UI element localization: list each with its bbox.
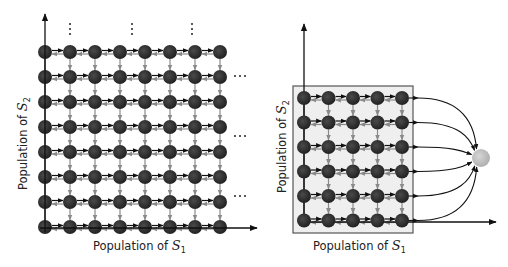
state-node [346,165,360,179]
vertical-ellipsis-dot [69,23,71,25]
state-node [322,165,336,179]
state-node [371,91,385,105]
state-node [213,170,227,184]
state-node [188,120,202,134]
horizontal-ellipsis-dot [244,75,246,77]
state-node [113,95,127,109]
state-node [63,70,77,84]
absorbing-state-node [472,149,490,167]
state-node [188,45,202,59]
state-node [371,165,385,179]
state-node [322,91,336,105]
state-node [297,165,311,179]
state-node [346,140,360,154]
absorbing-transition-curve [418,167,477,220]
vertical-ellipsis-dot [191,33,193,35]
left-panel-infinite-grid: Population of S1 Population of S2 [15,14,257,255]
state-node [113,220,127,234]
state-node [163,195,177,209]
state-node [371,189,385,203]
state-node [163,70,177,84]
vertical-ellipsis-dot [131,33,133,35]
horizontal-ellipsis-dot [244,135,246,137]
state-node [63,195,77,209]
absorbing-transition-curve [418,162,472,171]
state-node [371,140,385,154]
state-node [88,45,102,59]
state-node [138,120,152,134]
left-state-nodes [38,45,227,234]
state-node [138,45,152,59]
absorbing-transition-curve [418,147,472,155]
state-node [138,195,152,209]
horizontal-ellipsis-dot [239,75,241,77]
state-node [163,120,177,134]
state-node [88,195,102,209]
state-node [371,116,385,130]
state-node [346,189,360,203]
state-node [213,70,227,84]
state-node [213,195,227,209]
horizontal-ellipsis-dot [239,195,241,197]
right-x-axis-label: Population of S1 [313,238,406,255]
state-node [297,214,311,228]
state-node [395,91,409,105]
state-node [113,145,127,159]
state-node [138,220,152,234]
vertical-ellipsis-dot [131,28,133,30]
horizontal-ellipsis-dot [234,195,236,197]
state-node [113,120,127,134]
state-node [213,220,227,234]
absorbing-transition-curve [418,98,477,149]
state-node [113,195,127,209]
state-node [297,91,311,105]
state-node [213,120,227,134]
state-node [322,189,336,203]
state-node [188,70,202,84]
vertical-ellipsis-dot [191,23,193,25]
state-node [213,95,227,109]
state-node [395,214,409,228]
state-node [63,120,77,134]
state-node [213,45,227,59]
state-node [213,145,227,159]
state-node [395,189,409,203]
horizontal-ellipsis-dot [234,75,236,77]
left-x-axis-label: Population of S1 [93,238,186,255]
state-node [163,45,177,59]
state-node [88,95,102,109]
state-node [88,170,102,184]
state-node [63,95,77,109]
state-node [63,145,77,159]
state-node [63,45,77,59]
left-y-axis-label: Population of S2 [15,97,32,190]
right-y-axis-label: Population of S2 [274,100,291,193]
state-node [163,145,177,159]
vertical-ellipsis-dot [69,28,71,30]
state-node [188,95,202,109]
state-node [113,70,127,84]
horizontal-ellipsis-dot [239,135,241,137]
state-node [88,120,102,134]
state-node [188,220,202,234]
state-node [188,145,202,159]
right-absorbing-transitions [409,98,477,221]
state-node [113,170,127,184]
state-node [346,116,360,130]
state-node [395,140,409,154]
state-node [188,195,202,209]
state-node [371,214,385,228]
state-node [138,95,152,109]
state-node [346,214,360,228]
state-node [322,214,336,228]
state-node [138,170,152,184]
state-node [63,220,77,234]
horizontal-ellipsis-dot [244,195,246,197]
state-node [163,95,177,109]
state-node [163,220,177,234]
state-node [346,91,360,105]
state-node [322,116,336,130]
state-node [395,116,409,130]
horizontal-ellipsis-dot [234,135,236,137]
state-node [138,70,152,84]
